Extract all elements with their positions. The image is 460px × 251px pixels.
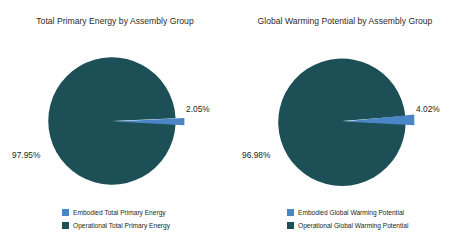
chart-panel-global-warming-potential: Global Warming Potential by Assembly Gro… (230, 0, 460, 251)
legend-item-operational-total-primary-energy: Operational Total Primary Energy (0, 219, 230, 232)
chart-title-global-warming-potential: Global Warming Potential by Assembly Gro… (230, 16, 460, 27)
pie-chart-figure: Total Primary Energy by Assembly Group 2… (0, 0, 460, 251)
legend-swatch-icon-operational (287, 222, 294, 229)
legend-label-embodied-total-primary-energy: Embodied Total Primary Energy (73, 209, 166, 217)
chart-title-total-primary-energy: Total Primary Energy by Assembly Group (0, 16, 230, 27)
pie-value-label-operational-global-warming-potential: 96.98% (242, 150, 270, 160)
legend-item-operational-global-warming-potential: Operational Global Warming Potential (230, 219, 460, 232)
pie-value-label-operational-total-primary-energy: 97.95% (12, 150, 40, 160)
legend-label-operational-total-primary-energy: Operational Total Primary Energy (73, 222, 170, 230)
chart-panel-total-primary-energy: Total Primary Energy by Assembly Group 2… (0, 0, 230, 251)
pie-value-label-embodied-global-warming-potential: 4.02% (416, 104, 440, 114)
legend-swatch-icon-embodied (62, 209, 69, 216)
legend-item-embodied-global-warming-potential: Embodied Global Warming Potential (230, 206, 460, 219)
pie-svg-total-primary-energy (0, 38, 230, 198)
legend-swatch-icon-operational (62, 222, 69, 229)
pie-value-label-embodied-total-primary-energy: 2.05% (186, 104, 210, 114)
legend-label-embodied-global-warming-potential: Embodied Global Warming Potential (298, 209, 404, 217)
pie-svg-global-warming-potential (230, 38, 460, 198)
legend-label-operational-global-warming-potential: Operational Global Warming Potential (298, 222, 408, 230)
pie-plot-global-warming-potential (230, 38, 460, 198)
legend-swatch-icon-embodied (287, 209, 294, 216)
legend-total-primary-energy: Embodied Total Primary Energy Operationa… (0, 206, 230, 232)
legend-global-warming-potential: Embodied Global Warming Potential Operat… (230, 206, 460, 232)
pie-plot-total-primary-energy (0, 38, 230, 198)
legend-item-embodied-total-primary-energy: Embodied Total Primary Energy (0, 206, 230, 219)
